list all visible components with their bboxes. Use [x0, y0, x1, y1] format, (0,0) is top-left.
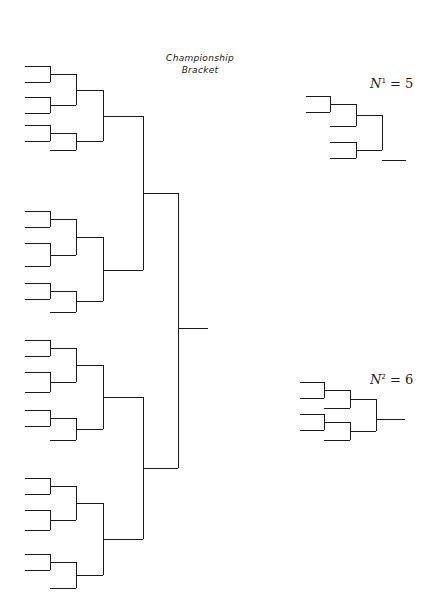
bracket-lines	[0, 0, 429, 615]
n1-var: N	[370, 76, 381, 91]
n1-label: N1 = 5	[370, 76, 413, 91]
main-bracket-group-1	[25, 66, 103, 150]
main-bracket-group-2	[25, 211, 103, 312]
small-bracket-n1	[306, 96, 406, 160]
main-bracket-group-4	[25, 478, 103, 588]
diagram-title: Championship Bracket	[150, 52, 250, 76]
n2-value: = 6	[390, 372, 413, 387]
title-line-2: Bracket	[150, 64, 250, 76]
n2-var: N	[370, 372, 381, 387]
n2-sup: 2	[381, 373, 385, 381]
n1-value: = 5	[390, 76, 413, 91]
n2-label: N2 = 6	[370, 372, 413, 387]
title-line-1: Championship	[150, 52, 250, 64]
main-bracket-group-3	[25, 340, 103, 440]
n1-sup: 1	[381, 77, 385, 85]
small-bracket-n2	[300, 382, 405, 440]
